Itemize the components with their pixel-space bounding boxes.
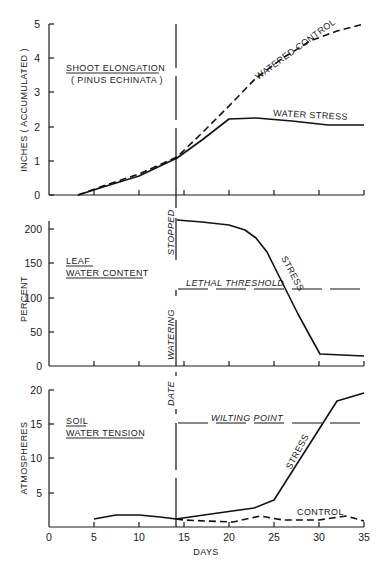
top-title: SHOOT ELONGATION xyxy=(66,63,165,73)
lethal-threshold-label: LETHAL THRESHOLD xyxy=(186,278,284,288)
bot-y-ticks: 5 10 15 20 xyxy=(30,384,54,499)
top-y-ticks: 0 1 2 3 4 5 xyxy=(34,18,54,201)
stopped-watering-date-marker: STOPPED WATERING DATE xyxy=(166,24,176,527)
bot-y-label: ATMOSPHERES xyxy=(19,422,29,495)
water-stress-line xyxy=(78,118,364,195)
top-subtitle: ( PINUS ECHINATA ) xyxy=(71,75,163,85)
figure: 0 1 2 3 4 5 INCHES ( ACCUMULATED ) SHOOT… xyxy=(0,0,386,561)
panel-soil-water-tension: 5 10 15 20 0 5 10 15 20 25 30 35 DAYS AT… xyxy=(19,384,370,557)
mid-x-ticks xyxy=(94,361,364,366)
bot-title-1: SOIL xyxy=(66,416,88,426)
svg-text:2: 2 xyxy=(34,121,40,133)
svg-text:200: 200 xyxy=(24,223,42,235)
svg-text:3: 3 xyxy=(34,86,40,98)
svg-text:20: 20 xyxy=(223,531,235,543)
bot-x-ticks: 0 5 10 15 20 25 30 35 xyxy=(46,522,370,543)
event-label-stopped: STOPPED xyxy=(166,209,176,255)
top-y-label: INCHES ( ACCUMULATED ) xyxy=(19,48,29,172)
mid-y-label: PERCENT xyxy=(19,276,29,322)
svg-text:10: 10 xyxy=(133,531,145,543)
svg-text:150: 150 xyxy=(24,257,42,269)
svg-text:25: 25 xyxy=(268,531,280,543)
event-label-watering: WATERING xyxy=(166,309,176,360)
svg-text:30: 30 xyxy=(313,531,325,543)
svg-text:0: 0 xyxy=(34,189,40,201)
soil-control-label: CONTROL xyxy=(297,507,344,517)
event-label-date: DATE xyxy=(166,380,176,406)
leaf-stress-line xyxy=(177,220,364,356)
watered-control-label: WATERED CONTROL xyxy=(253,17,337,82)
svg-text:15: 15 xyxy=(178,531,190,543)
x-axis-label: DAYS xyxy=(193,547,218,557)
svg-text:10: 10 xyxy=(30,452,42,464)
wilting-point-label: WILTING POINT xyxy=(211,413,284,423)
svg-text:4: 4 xyxy=(34,52,40,64)
svg-text:0: 0 xyxy=(36,360,42,372)
svg-text:0: 0 xyxy=(46,531,52,543)
soil-stress-line xyxy=(94,393,364,519)
svg-text:20: 20 xyxy=(30,384,42,396)
panel-leaf-water-content: 0 50 100 150 200 PERCENT LEAF WATER CONT… xyxy=(19,220,364,372)
svg-text:5: 5 xyxy=(36,487,42,499)
svg-text:5: 5 xyxy=(91,531,97,543)
svg-text:50: 50 xyxy=(30,326,42,338)
bot-title-2: WATER TENSION xyxy=(66,428,145,438)
svg-text:15: 15 xyxy=(30,418,42,430)
top-x-ticks xyxy=(94,190,364,195)
svg-text:35: 35 xyxy=(358,531,370,543)
panel-shoot-elongation: 0 1 2 3 4 5 INCHES ( ACCUMULATED ) SHOOT… xyxy=(19,17,364,201)
watered-control-line xyxy=(78,24,364,195)
svg-text:5: 5 xyxy=(34,18,40,30)
mid-title-2: WATER CONTENT xyxy=(66,268,149,278)
svg-text:1: 1 xyxy=(34,155,40,167)
soil-stress-label: STRESS xyxy=(284,432,311,471)
mid-title-1: LEAF xyxy=(66,256,90,266)
